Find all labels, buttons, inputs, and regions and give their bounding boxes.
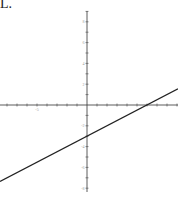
y-tick-label: 6 — [83, 40, 85, 45]
line-graph: -58642-2-4-6-8 — [0, 0, 178, 202]
y-tick-label: -4 — [81, 144, 84, 149]
data-line — [0, 89, 178, 182]
x-tick-label: -5 — [35, 107, 38, 112]
y-tick-label: -6 — [81, 165, 84, 170]
y-tick-label: 4 — [83, 61, 85, 66]
y-tick-label: 2 — [83, 82, 85, 87]
y-tick-label: -8 — [81, 186, 84, 191]
y-tick-label: 8 — [83, 19, 85, 24]
y-tick-label: -2 — [81, 123, 84, 128]
